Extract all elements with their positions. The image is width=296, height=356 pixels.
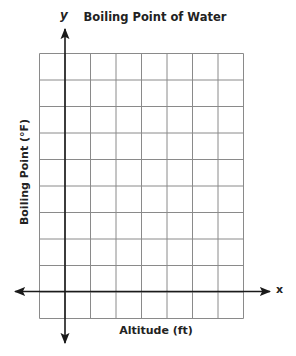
chart-title: Boiling Point of Water	[0, 10, 296, 24]
y-axis-variable: y	[60, 8, 68, 22]
y-axis-label: Boiling Point (°F)	[18, 119, 31, 225]
x-axis-label: Altitude (ft)	[60, 324, 252, 337]
grid	[40, 54, 244, 319]
chart-canvas	[0, 0, 296, 356]
x-axis-variable: x	[276, 283, 283, 296]
